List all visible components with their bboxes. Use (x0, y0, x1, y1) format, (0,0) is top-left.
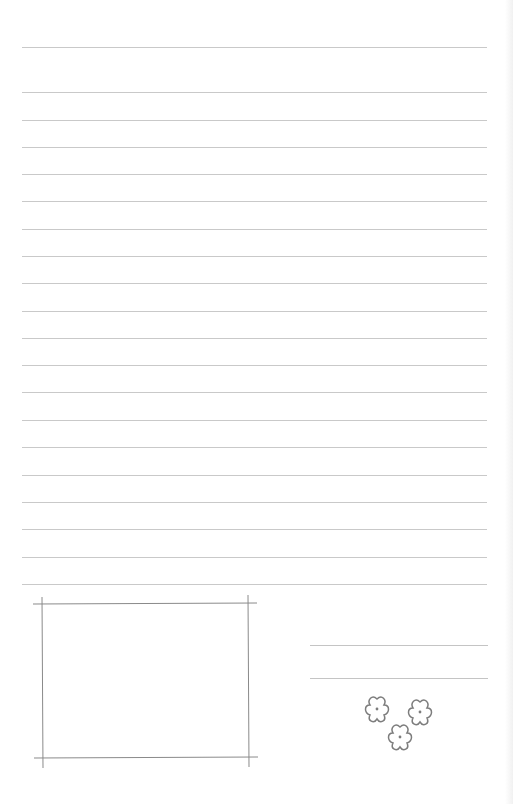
flower-icon (366, 697, 389, 721)
flower-icon (409, 700, 432, 724)
flower-icon (389, 725, 412, 749)
flower-decoration (0, 0, 513, 804)
